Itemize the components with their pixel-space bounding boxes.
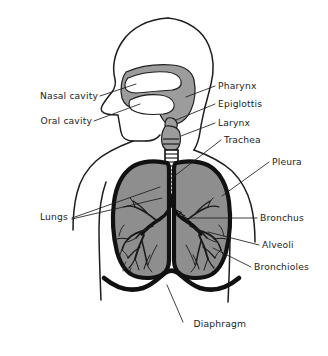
label-bronchioles: Bronchioles (254, 261, 309, 272)
leader-larynx (181, 123, 215, 136)
respiratory-system-diagram: Nasal cavity Oral cavity Lungs Pharynx E… (0, 0, 328, 356)
label-pharynx: Pharynx (218, 80, 257, 91)
label-lungs: Lungs (40, 211, 68, 222)
label-diaphragm: Diaphragm (194, 318, 246, 329)
label-oral-cavity: Oral cavity (41, 115, 93, 126)
diagram-canvas: Nasal cavity Oral cavity Lungs Pharynx E… (0, 0, 328, 356)
leader-oral-cavity (94, 104, 140, 121)
diaphragm (104, 271, 239, 290)
label-bronchus: Bronchus (260, 212, 304, 223)
label-nasal-cavity: Nasal cavity (40, 90, 98, 101)
upper-airway-cavities (121, 65, 195, 125)
label-larynx: Larynx (218, 117, 251, 128)
label-epiglottis: Epiglottis (218, 98, 262, 109)
oral-cavity (129, 95, 174, 115)
label-alveoli: Alveoli (262, 239, 294, 250)
label-pleura: Pleura (272, 156, 302, 167)
leader-diaphragm (167, 285, 183, 322)
label-trachea: Trachea (223, 134, 261, 145)
